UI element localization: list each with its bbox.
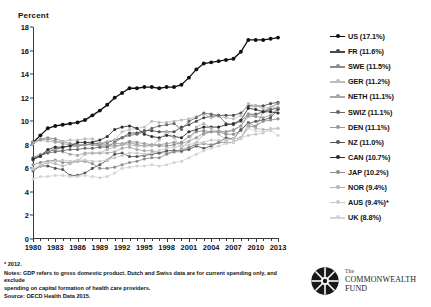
y-tick-label: 12: [21, 93, 29, 102]
series-swiz: [31, 107, 279, 160]
x-tick-mark: [278, 238, 279, 242]
x-tick-label: 2010: [247, 243, 264, 252]
legend-marker-icon: [330, 138, 345, 147]
legend-marker-icon: [330, 153, 345, 162]
legend-marker-icon: [330, 168, 345, 177]
legend-label: CAN (10.7%): [348, 153, 390, 162]
legend-item-den[interactable]: DEN (11.1%): [330, 120, 430, 135]
footnote-notes-line2: spending on capital formation of health …: [4, 285, 294, 292]
legend-item-swiz[interactable]: SWIZ (11.1%): [330, 104, 430, 119]
legend-label: JAP (10.2%): [348, 168, 389, 177]
y-tick-label: 10: [21, 117, 29, 126]
legend-marker-icon: [330, 32, 345, 41]
legend-marker-icon: [330, 213, 345, 222]
y-tick-label: 16: [21, 46, 29, 55]
y-tick-label: 6: [25, 164, 29, 173]
legend-marker-icon: [330, 108, 345, 117]
legend-label: SWIZ (11.1%): [348, 108, 392, 117]
plot-area: 024681012141618 198019831986198919921995…: [33, 27, 278, 239]
legend-item-ger[interactable]: GER (11.2%): [330, 74, 430, 89]
x-tick-label: 1992: [114, 243, 131, 252]
series-lines: [33, 27, 278, 239]
legend-marker-icon: [330, 198, 345, 207]
legend-item-nz[interactable]: NZ (11.0%): [330, 135, 430, 150]
y-axis-title: Percent: [18, 11, 49, 20]
legend-marker-icon: [330, 123, 345, 132]
x-tick-label: 2013: [270, 243, 287, 252]
legend-item-neth[interactable]: NETH (11.1%): [330, 89, 430, 104]
legend-item-fr[interactable]: FR (11.6%): [330, 44, 430, 59]
sunburst-wheel-icon: [310, 266, 340, 296]
x-tick-label: 1983: [47, 243, 64, 252]
series-fr: [31, 101, 279, 162]
y-tick-label: 18: [21, 23, 29, 32]
legend-label: UK (8.8%): [348, 213, 381, 222]
legend-label: NZ (11.0%): [348, 138, 384, 147]
legend-item-jap[interactable]: JAP (10.2%): [330, 165, 430, 180]
y-tick-label: 14: [21, 70, 29, 79]
legend-item-aus[interactable]: AUS (9.4%)*: [330, 195, 430, 210]
x-tick-label: 1989: [91, 243, 108, 252]
legend-marker-icon: [330, 183, 345, 192]
series-neth: [31, 107, 279, 160]
y-tick-label: 4: [25, 187, 29, 196]
x-tick-label: 2007: [225, 243, 242, 252]
x-tick-label: 1995: [136, 243, 153, 252]
legend-label: AUS (9.4%)*: [348, 198, 389, 207]
chart-legend: US (17.1%)FR (11.6%)SWE (11.5%)GER (11.2…: [330, 29, 430, 225]
footnotes: * 2012. Notes: GDP refers to gross domes…: [4, 261, 294, 300]
legend-label: NETH (11.1%): [348, 92, 394, 101]
x-tick-label: 1986: [69, 243, 86, 252]
footnote-notes-line1: Notes: GDP refers to gross domestic prod…: [4, 270, 294, 285]
legend-label: US (17.1%): [348, 32, 385, 41]
y-tick-label: 2: [25, 211, 29, 220]
logo-name-line1: COMMONWEALTH: [345, 275, 416, 284]
chart-figure: Percent 024681012141618 1980198319861989…: [0, 0, 431, 307]
legend-marker-icon: [330, 92, 345, 101]
legend-label: DEN (11.1%): [348, 123, 389, 132]
x-tick-label: 1998: [158, 243, 175, 252]
series-can: [31, 107, 279, 161]
x-tick-label: 2001: [181, 243, 198, 252]
legend-marker-icon: [330, 77, 345, 86]
legend-label: FR (11.6%): [348, 47, 384, 56]
legend-label: SWE (11.5%): [348, 62, 391, 71]
legend-marker-icon: [330, 47, 345, 56]
x-tick-label: 2004: [203, 243, 220, 252]
legend-item-swe[interactable]: SWE (11.5%): [330, 59, 430, 74]
legend-item-uk[interactable]: UK (8.8%): [330, 210, 430, 225]
commonwealth-fund-logo: The COMMONWEALTH FUND: [310, 266, 416, 296]
footnote-asterisk: * 2012.: [4, 261, 294, 268]
legend-item-nor[interactable]: NOR (9.4%): [330, 180, 430, 195]
legend-item-can[interactable]: CAN (10.7%): [330, 150, 430, 165]
legend-marker-icon: [330, 62, 345, 71]
logo-wordmark: The COMMONWEALTH FUND: [345, 269, 416, 293]
footnote-source: Source: OECD Health Data 2015.: [4, 293, 294, 300]
legend-item-us[interactable]: US (17.1%): [330, 29, 430, 44]
legend-label: NOR (9.4%): [348, 183, 387, 192]
legend-label: GER (11.2%): [348, 77, 390, 86]
y-tick-label: 8: [25, 140, 29, 149]
x-tick-label: 1980: [25, 243, 42, 252]
logo-name-line2: FUND: [345, 284, 416, 293]
